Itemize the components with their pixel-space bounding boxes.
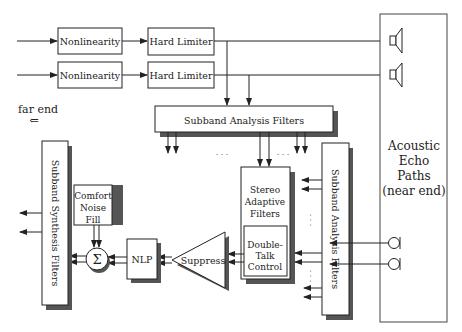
svg-text:Stereo: Stereo [250,185,280,195]
subband-synthesis-filters-block: Subband Synthesis Filters [42,141,72,310]
svg-text:Σ: Σ [92,252,101,267]
analysis-output-arrows [168,132,305,166]
svg-text:Double-: Double- [247,240,282,250]
svg-text:Echo: Echo [399,154,429,168]
svg-text:Talk: Talk [255,251,275,261]
suppress-block: Suppress [172,232,229,291]
svg-text:Nonlinearity: Nonlinearity [60,70,121,81]
hard-limiter-block-1: Hard Limiter [148,28,214,55]
sum-output-arrows [70,256,86,262]
svg-text:Nonlinearity: Nonlinearity [60,36,121,47]
comfort-noise-output-arrows [94,225,99,247]
ellipsis: · · · [306,270,315,283]
svg-text:⇐: ⇐ [29,114,38,127]
double-talk-control-block: Double- Talk Control [244,226,287,276]
subband-analysis-filters-top: Subband Analysis Filters [155,106,338,137]
far-end-label: far end ⇐ [18,103,58,127]
ellipsis: · · · [216,150,229,159]
acoustic-echo-paths-block: Acoustic Echo Paths (near end) [380,14,447,322]
nlp-output-arrows [108,257,127,263]
svg-text:Filters: Filters [250,209,280,219]
svg-text:Adaptive: Adaptive [244,197,285,207]
svg-text:Subband Analysis Filters: Subband Analysis Filters [184,115,304,126]
svg-text:Noise: Noise [80,203,106,213]
nlp-block: NLP [127,239,161,283]
svg-text:Suppress: Suppress [181,255,226,266]
svg-text:Hard Limiter: Hard Limiter [150,36,213,47]
echo-canceller-diagram: Nonlinearity Nonlinearity Hard Limiter H… [0,0,462,332]
hard-limiter-block-2: Hard Limiter [148,62,214,88]
ellipsis: · · · [277,150,290,159]
comfort-noise-fill-block: Comfort Noise Fill [74,185,123,225]
svg-text:(near end): (near end) [382,184,445,198]
svg-text:Subband Analysis Filters: Subband Analysis Filters [330,169,341,289]
ellipsis: · · · [306,214,315,227]
synthesis-output-arrows [20,213,42,232]
subband-analysis-filters-right: Subband Analysis Filters [322,143,353,320]
svg-text:Paths: Paths [397,169,430,183]
svg-text:Acoustic: Acoustic [387,139,440,153]
svg-text:Comfort: Comfort [74,191,112,201]
svg-text:Hard Limiter: Hard Limiter [150,70,213,81]
svg-text:Fill: Fill [86,215,101,225]
svg-text:Subband Synthesis Filters: Subband Synthesis Filters [50,160,61,287]
nonlinearity-block-2: Nonlinearity [58,62,122,88]
svg-text:Control: Control [248,262,282,272]
svg-text:NLP: NLP [131,254,153,265]
nonlinearity-block-1: Nonlinearity [58,28,122,54]
summation-node: Σ [86,248,110,273]
